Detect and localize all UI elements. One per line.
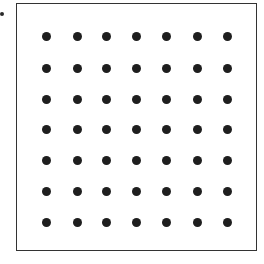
grid-dot bbox=[42, 125, 51, 134]
grid-dot bbox=[162, 32, 171, 41]
grid-dot bbox=[223, 64, 232, 73]
grid-dot bbox=[102, 218, 111, 227]
grid-dot bbox=[162, 187, 171, 196]
grid-dot bbox=[73, 32, 82, 41]
grid-dot bbox=[223, 187, 232, 196]
grid-dot bbox=[102, 187, 111, 196]
grid-dot bbox=[193, 32, 202, 41]
grid-dot bbox=[42, 218, 51, 227]
stray-mark-dot bbox=[0, 12, 4, 16]
grid-dot bbox=[73, 218, 82, 227]
grid-dot bbox=[162, 218, 171, 227]
grid-dot bbox=[42, 187, 51, 196]
grid-dot bbox=[102, 64, 111, 73]
grid-dot bbox=[193, 64, 202, 73]
grid-dot bbox=[132, 64, 141, 73]
grid-dot bbox=[42, 95, 51, 104]
grid-dot bbox=[132, 125, 141, 134]
grid-dot bbox=[193, 156, 202, 165]
grid-dot bbox=[73, 64, 82, 73]
grid-dot bbox=[132, 218, 141, 227]
grid-dot bbox=[132, 95, 141, 104]
grid-dot bbox=[42, 32, 51, 41]
grid-dot bbox=[193, 125, 202, 134]
grid-dot bbox=[223, 125, 232, 134]
grid-dot bbox=[132, 156, 141, 165]
grid-dot bbox=[132, 32, 141, 41]
grid-dot bbox=[162, 156, 171, 165]
grid-dot bbox=[223, 218, 232, 227]
grid-dot bbox=[42, 156, 51, 165]
grid-dot bbox=[162, 95, 171, 104]
grid-dot bbox=[193, 218, 202, 227]
grid-dot bbox=[132, 187, 141, 196]
grid-dot bbox=[162, 64, 171, 73]
grid-dot bbox=[223, 156, 232, 165]
grid-dot bbox=[102, 32, 111, 41]
grid-dot bbox=[193, 95, 202, 104]
grid-dot bbox=[193, 187, 202, 196]
grid-dot bbox=[102, 125, 111, 134]
grid-dot bbox=[102, 95, 111, 104]
grid-dot bbox=[42, 64, 51, 73]
grid-dot bbox=[162, 125, 171, 134]
grid-dot bbox=[73, 95, 82, 104]
grid-dot bbox=[223, 32, 232, 41]
grid-dot bbox=[223, 95, 232, 104]
grid-dot bbox=[102, 156, 111, 165]
grid-dot bbox=[73, 125, 82, 134]
grid-dot bbox=[73, 187, 82, 196]
grid-dot bbox=[73, 156, 82, 165]
